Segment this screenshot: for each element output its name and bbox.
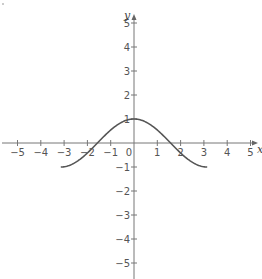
x-tick-label: −5 <box>10 147 25 158</box>
y-tick-label: 2 <box>124 90 130 101</box>
y-tick-label: −1 <box>115 162 130 173</box>
cosine-graph: −5−4−3−2−1012345 −5−4−3−2−112345 x y <box>0 0 262 279</box>
x-tick-label: 3 <box>201 147 207 158</box>
y-tick-label: −3 <box>115 210 130 221</box>
x-tick-label: −3 <box>57 147 72 158</box>
y-tick-label: −2 <box>115 186 130 197</box>
x-tick-label: 1 <box>154 147 160 158</box>
y-tick-label: 3 <box>124 66 130 77</box>
y-tick-label: −5 <box>115 258 130 269</box>
y-tick-label: −4 <box>115 234 130 245</box>
y-axis-arrow-icon <box>132 14 137 20</box>
x-tick-label: 4 <box>224 147 230 158</box>
x-axis-label: x <box>257 143 262 156</box>
x-tick-label: 0 <box>126 147 132 158</box>
x-tick-label: −1 <box>103 147 118 158</box>
scan-artifact-dot <box>2 3 4 5</box>
x-tick-label: −4 <box>33 147 48 158</box>
x-tick-label: 5 <box>247 147 253 158</box>
y-tick-label: 4 <box>124 42 130 53</box>
y-axis-label: y <box>123 9 131 22</box>
